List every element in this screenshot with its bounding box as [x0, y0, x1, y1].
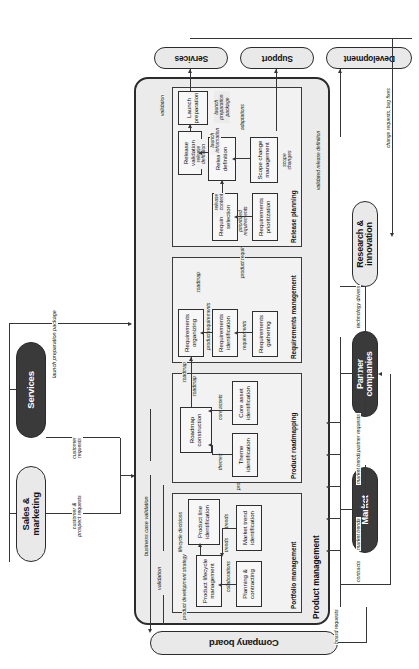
label-core-assets: core assets	[218, 393, 223, 421]
conn-bcv-rail2	[150, 409, 151, 461]
arrow-market	[326, 517, 330, 521]
conn-ri-ro	[204, 332, 212, 333]
label-customer-requests: customer requests	[72, 424, 83, 472]
conn-core-up	[212, 410, 232, 411]
label-validated-release-definition: validated release definition	[316, 130, 321, 191]
label-market-trends-mid: market trends	[356, 451, 361, 485]
arrow-mt2	[326, 485, 330, 489]
conn-board-down	[338, 642, 366, 643]
actor-development: Development	[326, 47, 412, 69]
actor-company-board-label: Company board	[206, 638, 282, 648]
actor-sales-marketing-label: Sales & marketing	[21, 489, 41, 539]
diagram-stage: Sales & marketing Services launch prepar…	[0, 0, 419, 669]
label-partner-requests: partner requests	[356, 413, 361, 453]
label-business-case-validation: business case validation	[144, 495, 150, 557]
conn-sm-up	[9, 513, 16, 514]
actor-services: Services Services	[154, 47, 228, 69]
label-roadmap-a: roadmap	[192, 375, 197, 397]
activity-market-trend-identification-label: Market trend identification	[242, 511, 256, 545]
conn-market-in	[365, 465, 366, 510]
conn-bcv-rail	[150, 475, 151, 615]
label-collaborations: collaborations	[226, 560, 231, 593]
conn-scm-rd	[236, 158, 250, 159]
arrow-launch-package-down	[128, 322, 132, 326]
diagram-canvas: Sales & marketing Services launch prepar…	[0, 0, 419, 669]
label-launch-preparation-package: launch preparation package	[214, 91, 230, 123]
conn-to-support	[276, 69, 277, 131]
label-scope-changes: scope changes	[282, 145, 293, 175]
arrow-rs-rd	[220, 180, 224, 184]
group-requirements-management-label: Requirements management	[290, 275, 297, 359]
arrow-contracts-up	[378, 372, 382, 376]
conn-top-rail	[9, 324, 10, 562]
label-contracts: contracts	[356, 560, 361, 583]
conn-cust-down	[46, 437, 120, 438]
arrow-rv-lp	[188, 124, 192, 128]
conn-top-rail-down	[9, 323, 131, 324]
label-themes: themes	[218, 453, 223, 471]
label-requirements: requirements	[242, 320, 247, 351]
label-roadmap-b: roadmap	[182, 361, 187, 383]
arrow-rd-rv	[198, 151, 202, 155]
activity-product-line-identification: Product line identification	[188, 499, 220, 545]
activity-core-asset-identification-label: Core asset identification	[238, 386, 252, 420]
label-product-requirements: product requirements	[206, 302, 211, 351]
conn-mt-plm	[222, 529, 223, 555]
actor-sales-marketing: Sales & marketing	[16, 466, 46, 562]
label-launch-information: launch information	[210, 125, 221, 155]
activity-product-line-identification-label: Product line identification	[197, 505, 211, 539]
arrow-pc-up	[218, 583, 222, 587]
activity-market-trend-identification: Market trend identification	[236, 505, 262, 551]
conn-val-rail	[163, 595, 164, 625]
actor-customer: Services	[16, 342, 46, 438]
conn-dev-back	[190, 38, 412, 39]
arrow-mt-plm	[220, 553, 224, 557]
arrow-rp-rs	[234, 215, 238, 219]
activity-planning-contracting-label: Planning & contracting	[242, 569, 256, 599]
conn-partner-in	[365, 374, 366, 417]
arrow-tech	[326, 421, 330, 425]
conn-cust-up	[9, 389, 16, 390]
actor-development-label: Development	[340, 54, 397, 63]
conn-market-down	[340, 509, 365, 510]
label-roadmap-c: roadmap	[196, 271, 201, 293]
label-trends-a: trends	[224, 537, 229, 553]
label-change-requests-bug-fixes: change requests, bug fixes	[386, 87, 391, 149]
group-portfolio-management-label: Portfolio management	[290, 542, 297, 609]
conn-pc-up	[222, 584, 236, 585]
conn-tech-up	[330, 422, 340, 423]
arrow-partner	[326, 453, 330, 457]
actor-support-label: Support	[258, 54, 295, 63]
actor-company-board: Company board	[150, 631, 338, 655]
conn-bottom-rail	[340, 337, 341, 607]
activity-requirements-identification-label: Requirements identification	[218, 314, 232, 352]
arrow-ri-ro	[200, 331, 204, 335]
activity-requirements-prioritization-label: Requirements prioritization	[258, 198, 272, 236]
arrow-board-left	[148, 629, 152, 633]
conn-mt2-up	[330, 486, 340, 487]
conn-rg-ri	[238, 332, 252, 333]
label-product-development-strategy: product development strategy	[182, 553, 187, 621]
activity-scope-change-management: Scope change management	[250, 137, 278, 183]
conn-to-development	[340, 69, 341, 137]
arrow-scm-rd	[232, 157, 236, 161]
conn-rp-rs	[238, 216, 252, 217]
conn-partner-down	[340, 373, 365, 374]
arrow-theme-rc	[208, 443, 212, 447]
conn-board-h	[366, 607, 367, 643]
arrow-rg-ri	[234, 331, 238, 335]
label-launch-preparation-package-top: launch preparation package	[52, 309, 58, 379]
activity-theme-identification: Theme identification	[232, 433, 258, 477]
activity-launch-preparation: Launch preparation	[178, 91, 208, 125]
conn-sm-down	[46, 513, 120, 514]
activity-core-asset-identification: Core asset identification	[232, 381, 258, 425]
conn-theme-up	[212, 454, 232, 455]
conn-theme-rc	[212, 445, 213, 455]
activity-requirements-gathering-label: Requirements gathering	[258, 315, 272, 353]
activity-launch-preparation-label: Launch preparation	[186, 93, 200, 124]
conn-board-req-up	[330, 550, 340, 551]
arrow-plm-pli	[198, 543, 202, 547]
label-prioritized-requirements: prioritized requirements	[238, 203, 249, 239]
activity-requirements-organizing-label: Requirements organizing	[184, 314, 198, 352]
label-market-trends-left: market trends	[356, 517, 361, 551]
